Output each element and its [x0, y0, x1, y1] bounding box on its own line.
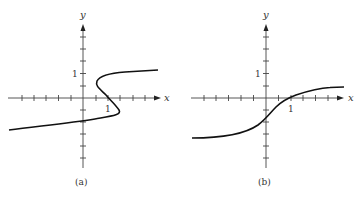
x-axis-label-a: x: [164, 92, 170, 103]
x-tick-label-1-a: 1: [105, 104, 111, 114]
curve-b: [192, 87, 344, 138]
x-axis-label-b: x: [348, 92, 354, 103]
x-axis-arrow-icon: [154, 96, 161, 101]
y-axis-label-b: y: [262, 9, 269, 20]
y-axis-arrow-icon: [264, 24, 269, 31]
y-tick-label-1-b: 1: [255, 69, 261, 79]
curve-a: [9, 70, 158, 130]
y-tick-label-1-a: 1: [72, 69, 78, 79]
caption-b: (b): [258, 177, 271, 187]
panel-b: x y 1 1 (b): [191, 9, 354, 187]
x-axis-arrow-icon: [337, 96, 344, 101]
caption-a: (a): [75, 177, 87, 187]
figure: x y 1 1 (a): [0, 0, 358, 199]
y-axis-label-a: y: [79, 9, 86, 20]
y-axis-arrow-icon: [81, 24, 86, 31]
x-tick-label-1-b: 1: [288, 104, 294, 114]
panel-a: x y 1 1 (a): [8, 9, 170, 187]
